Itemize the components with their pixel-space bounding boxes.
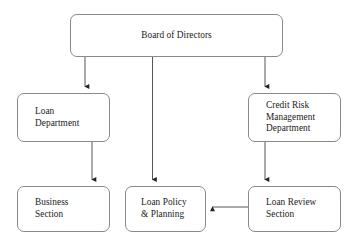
node-loan-department[interactable]: Loan Department (17, 93, 110, 142)
node-loan-review-section-label: Loan Review Section (249, 197, 340, 220)
node-loan-policy-and-planning-label: Loan Policy & Planning (126, 197, 205, 220)
node-business-section[interactable]: Business Section (17, 186, 110, 232)
node-credit-risk-management-department[interactable]: Credit Risk Management Department (248, 93, 341, 142)
node-credit-risk-management-department-label: Credit Risk Management Department (249, 100, 340, 135)
node-loan-policy-and-planning[interactable]: Loan Policy & Planning (125, 186, 206, 232)
org-chart-diagram: Board of Directors Loan Department Credi… (0, 0, 357, 243)
node-business-section-label: Business Section (18, 197, 109, 220)
node-board-of-directors-label: Board of Directors (71, 30, 282, 42)
node-board-of-directors[interactable]: Board of Directors (70, 14, 283, 57)
node-loan-department-label: Loan Department (18, 106, 109, 129)
node-loan-review-section[interactable]: Loan Review Section (248, 186, 341, 232)
